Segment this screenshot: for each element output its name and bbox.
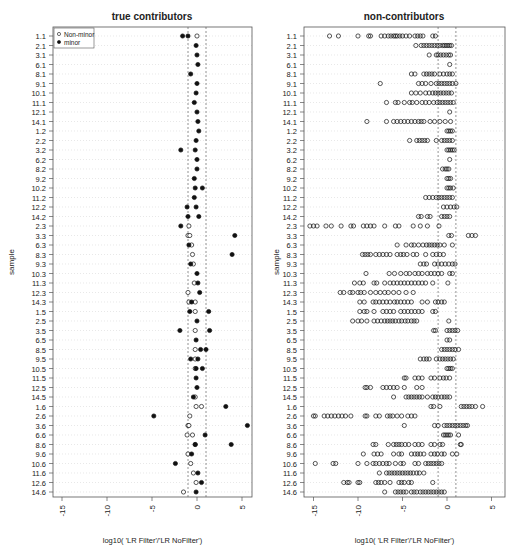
data-point-non-contributor <box>365 461 369 465</box>
x-tick-label: -10 <box>354 504 363 516</box>
data-point-minor <box>186 214 190 218</box>
data-point-minor <box>193 442 197 446</box>
data-point-non-contributor <box>420 395 424 399</box>
data-point-minor <box>189 262 193 266</box>
y-tick-label: 10.1 <box>282 89 297 98</box>
data-point-non-contributor <box>402 423 406 427</box>
data-point-minor <box>195 53 199 57</box>
x-tick-label: -5 <box>148 504 157 512</box>
y-tick-label: 14.5 <box>31 393 46 402</box>
y-tick-label: 10.6 <box>282 460 297 469</box>
y-tick-label: 6.1 <box>36 61 46 70</box>
y-tick-label: 3.2 <box>287 146 297 155</box>
data-point-non-contributor <box>374 442 378 446</box>
data-point-non-contributor <box>446 281 450 285</box>
x-tick-label: 5 <box>238 504 247 509</box>
data-point-non-contributor <box>339 224 343 228</box>
data-point-minor <box>185 205 189 209</box>
y-tick-label: 12.6 <box>31 479 46 488</box>
data-point-minor <box>207 309 211 313</box>
y-axis-label: sample <box>7 249 16 275</box>
y-tick-label: 8.3 <box>287 251 297 260</box>
y-tick-label: 1.6 <box>287 403 297 412</box>
data-point-minor <box>194 376 198 380</box>
data-point-non-contributor <box>392 395 396 399</box>
data-point-non-contributor <box>420 385 424 389</box>
data-point-non-contributor <box>450 243 454 247</box>
y-tick-label: 2.5 <box>287 317 297 326</box>
y-tick-label: 6.3 <box>36 241 46 250</box>
data-point-minor <box>192 195 196 199</box>
data-point-non-contributor <box>455 205 459 209</box>
data-point-minor <box>190 452 194 456</box>
data-point-non-minor <box>188 414 192 418</box>
data-point-minor <box>194 490 198 494</box>
y-tick-label: 2.2 <box>36 137 46 146</box>
y-tick-label: 8.2 <box>36 165 46 174</box>
y-tick-label: 10.3 <box>31 270 46 279</box>
data-point-non-contributor <box>417 471 421 475</box>
data-point-non-contributor <box>411 224 415 228</box>
x-tick-label: -5 <box>399 504 408 512</box>
y-tick-label: 11.1 <box>283 99 297 108</box>
data-point-non-contributor <box>365 119 369 123</box>
data-point-minor <box>229 442 233 446</box>
data-point-minor <box>196 471 200 475</box>
data-point-non-contributor <box>435 452 439 456</box>
y-tick-label: 6.6 <box>287 431 297 440</box>
data-point-minor <box>187 243 191 247</box>
data-point-non-minor <box>189 461 193 465</box>
y-tick-label: 12.1 <box>31 108 46 117</box>
data-point-minor <box>194 43 198 47</box>
y-tick-label: 8.1 <box>287 70 297 79</box>
panel-title: true contributors <box>112 11 193 22</box>
y-tick-label: 11.6 <box>32 469 46 478</box>
data-point-non-contributor <box>402 480 406 484</box>
y-tick-label: 10.1 <box>31 89 46 98</box>
data-point-non-minor <box>195 34 199 38</box>
data-point-non-contributor <box>450 452 454 456</box>
y-tick-label: 8.2 <box>287 165 297 174</box>
data-point-minor <box>196 281 200 285</box>
data-point-non-contributor <box>411 290 415 294</box>
data-point-non-contributor <box>365 309 369 313</box>
data-point-minor <box>194 138 198 142</box>
y-tick-label: 6.3 <box>287 241 297 250</box>
data-point-non-contributor <box>450 271 454 275</box>
x-tick-label: 0 <box>443 504 452 509</box>
data-point-non-contributor <box>374 290 378 294</box>
data-point-minor <box>200 186 204 190</box>
data-point-non-contributor <box>402 385 406 389</box>
data-point-minor <box>230 252 234 256</box>
data-point-non-minor <box>187 224 191 228</box>
data-point-non-contributor <box>420 300 424 304</box>
y-tick-label: 6.1 <box>287 61 297 70</box>
y-tick-label: 8.5 <box>287 346 297 355</box>
data-point-non-contributor <box>378 290 382 294</box>
y-tick-label: 8.3 <box>36 251 46 260</box>
y-tick-label: 9.2 <box>36 175 46 184</box>
y-tick-label: 11.2 <box>283 194 297 203</box>
y-tick-label: 11.5 <box>283 374 297 383</box>
data-point-non-minor <box>193 328 197 332</box>
data-point-minor <box>193 148 197 152</box>
data-point-non-contributor <box>392 452 396 456</box>
data-point-non-contributor <box>383 281 387 285</box>
data-point-non-contributor <box>431 480 435 484</box>
data-point-non-contributor <box>392 290 396 294</box>
x-tick-label: 5 <box>488 504 497 509</box>
y-tick-label: 12.5 <box>282 384 297 393</box>
data-point-minor <box>196 357 200 361</box>
data-point-minor <box>179 224 183 228</box>
y-tick-label: 2.3 <box>287 222 297 231</box>
data-point-non-contributor <box>450 138 454 142</box>
data-point-minor <box>197 214 201 218</box>
y-tick-label: 14.2 <box>31 213 46 222</box>
data-point-minor <box>186 34 190 38</box>
plot-frame <box>304 27 505 497</box>
data-point-minor <box>190 300 194 304</box>
y-tick-label: 6.6 <box>36 431 46 440</box>
legend: Non-minorminor <box>54 28 95 48</box>
data-point-non-contributor <box>448 119 452 123</box>
data-point-non-contributor <box>396 100 400 104</box>
